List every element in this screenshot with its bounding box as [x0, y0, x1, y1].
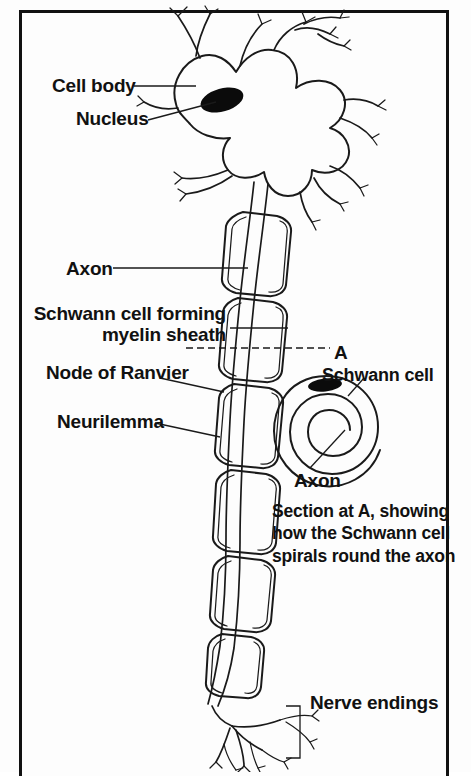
label-axon: Axon	[66, 258, 113, 279]
myelin-sheath	[206, 212, 291, 698]
label-axon-inset: Axon	[294, 470, 341, 491]
label-nucleus: Nucleus	[76, 108, 149, 129]
label-cell-body: Cell body	[52, 75, 136, 96]
nerve-endings-bracket	[286, 706, 300, 758]
label-node-of-ranvier: Node of Ranvier	[46, 362, 189, 383]
label-schwann-cell-forming-myelin-sheath: Schwann cell forming myelin sheath	[33, 303, 226, 346]
label-nerve-endings: Nerve endings	[310, 692, 438, 713]
nucleus-shape	[198, 83, 247, 117]
label-neurilemma: Neurilemma	[57, 411, 164, 432]
figure-caption: Section at A, showing how the Schwann ce…	[272, 500, 452, 567]
label-section-marker-a: A	[334, 342, 348, 363]
dendrites	[137, 6, 386, 230]
nerve-endings-shape	[210, 706, 319, 772]
label-schwann-cell: Schwann cell	[322, 365, 434, 385]
leader-neurilemma	[155, 423, 220, 437]
cell-body-shape	[174, 50, 349, 196]
